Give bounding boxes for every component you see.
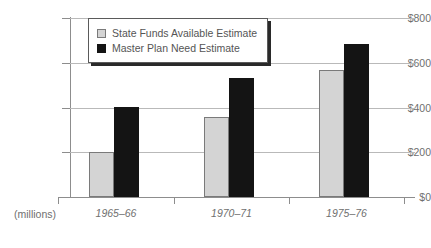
bar-1970-71-state-funds xyxy=(204,117,229,197)
bar-1975-76-state-funds xyxy=(319,70,344,197)
x-axis-line xyxy=(58,197,415,198)
chart-legend: State Funds Available Estimate Master Pl… xyxy=(88,18,268,63)
legend-swatch-black-square xyxy=(97,44,106,53)
legend-label-state-funds: State Funds Available Estimate xyxy=(112,28,257,39)
x-tick-mark-2 xyxy=(289,197,290,204)
legend-swatch-light-gray-square xyxy=(97,29,106,38)
x-tick-label-1975-76: 1975–76 xyxy=(289,207,404,219)
x-tick-label-1970-71: 1970–71 xyxy=(174,207,289,219)
y-tick-mark-200 xyxy=(62,152,70,153)
y-tick-mark-0 xyxy=(62,197,70,198)
y-tick-mark-400 xyxy=(62,108,70,109)
legend-label-master-plan: Master Plan Need Estimate xyxy=(112,43,240,54)
x-tick-label-1965-66: 1965–66 xyxy=(58,207,174,219)
bar-1965-66-state-funds xyxy=(89,152,114,197)
bar-1970-71-master-plan xyxy=(229,78,254,197)
legend-item-master-plan: Master Plan Need Estimate xyxy=(97,41,257,55)
y-tick-mark-800 xyxy=(62,18,70,19)
x-tick-mark-start xyxy=(58,197,59,204)
bar-1965-66-master-plan xyxy=(114,107,139,197)
x-tick-mark-end xyxy=(404,197,405,204)
legend-item-state-funds: State Funds Available Estimate xyxy=(97,26,257,40)
bar-1975-76-master-plan xyxy=(344,44,369,197)
bar-chart: $800 $600 $400 $200 $0 (millions) 1965–6… xyxy=(0,0,431,248)
y-tick-mark-600 xyxy=(62,63,70,64)
x-tick-mark-1 xyxy=(174,197,175,204)
